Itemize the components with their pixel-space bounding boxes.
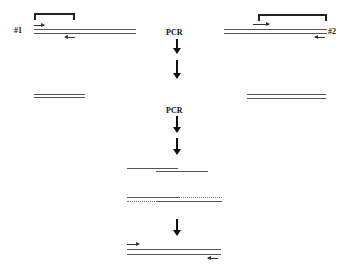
product-2-top — [247, 94, 326, 95]
product-1-bottom — [34, 97, 85, 98]
annealed-strand-top — [127, 197, 178, 198]
overlap-fragment-1 — [127, 168, 178, 169]
dna-strand-bottom-2 — [224, 33, 327, 34]
overlap-fragment-2 — [156, 171, 208, 172]
extension-bottom-dotted — [127, 201, 157, 202]
dna-strand-top-2 — [224, 29, 327, 30]
amplicon-bracket-2 — [258, 14, 327, 21]
arrow-down-icon — [176, 116, 178, 128]
forward-primer-1-icon — [34, 25, 44, 26]
annealed-strand-bottom — [157, 201, 222, 202]
fused-product-top — [127, 249, 221, 250]
fused-product-bottom — [127, 254, 221, 255]
reverse-primer-final-icon — [208, 258, 218, 259]
forward-primer-2-icon — [253, 24, 269, 25]
forward-primer-final-icon — [127, 244, 139, 245]
extension-top-dotted — [178, 197, 222, 198]
product-2-bottom — [247, 98, 326, 99]
amplicon-bracket-1 — [34, 13, 75, 20]
dna-strand-bottom-1 — [34, 33, 136, 34]
pcr-step-1-label: PCR — [166, 29, 182, 37]
template-1-label: #1 — [14, 27, 22, 35]
arrow-down-icon — [176, 219, 178, 231]
reverse-primer-1-icon — [65, 37, 75, 38]
arrow-down-icon — [176, 60, 178, 74]
pcr-step-2-label: PCR — [166, 107, 182, 115]
dna-strand-top-1 — [34, 29, 136, 30]
template-2-label: #2 — [328, 28, 336, 36]
reverse-primer-2-icon — [315, 37, 325, 38]
arrow-down-icon — [176, 138, 178, 150]
product-1-top — [34, 94, 85, 95]
arrow-down-icon — [176, 39, 178, 49]
